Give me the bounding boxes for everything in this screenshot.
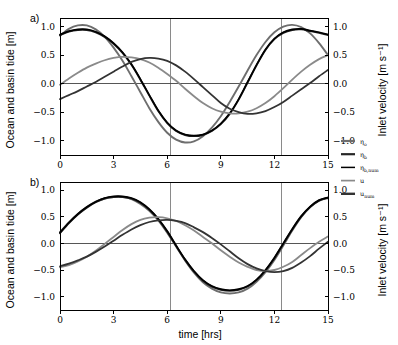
panel-a-y-axis-title: Ocean and basin tide [m] bbox=[4, 32, 16, 149]
y-tick-label: −0.5 bbox=[33, 265, 55, 275]
x-axis-title: time [hrs] bbox=[178, 328, 221, 340]
panel-b-label: b) bbox=[30, 176, 39, 188]
x-tick-label: 6 bbox=[164, 315, 170, 325]
y2-tick-label: 1.0 bbox=[333, 22, 348, 32]
y2-tick-label: 0.5 bbox=[333, 212, 348, 222]
tide-and-velocity-figure: a) Ocean and basin tide [m] Inlet veloci… bbox=[0, 0, 398, 345]
x-tick-label: 15 bbox=[322, 315, 334, 325]
x-tick-label: 12 bbox=[269, 315, 280, 325]
y2-tick-label: 0.5 bbox=[333, 50, 348, 60]
y2-tick-label: −0.5 bbox=[333, 107, 355, 117]
x-tick-label: 12 bbox=[269, 160, 280, 170]
y-tick-label: 0.5 bbox=[41, 50, 56, 60]
y-tick-label: −1.0 bbox=[33, 136, 55, 146]
x-tick-label: 0 bbox=[57, 160, 63, 170]
y-tick-label: 0.5 bbox=[41, 212, 56, 222]
y2-tick-label: 0.0 bbox=[333, 79, 348, 89]
y-tick-label: −0.5 bbox=[33, 107, 55, 117]
y2-tick-label: 0.0 bbox=[333, 239, 348, 249]
x-tick-label: 6 bbox=[164, 160, 170, 170]
x-tick-label: 0 bbox=[57, 315, 63, 325]
x-tick-label: 3 bbox=[111, 160, 117, 170]
panel-b-y-axis-title: Ocean and basin tide [m] bbox=[4, 192, 16, 309]
y-tick-label: 1.0 bbox=[41, 185, 56, 195]
x-tick-label: 9 bbox=[218, 160, 224, 170]
x-tick-label: 9 bbox=[218, 315, 224, 325]
x-tick-label: 3 bbox=[111, 315, 117, 325]
y-tick-label: 0.0 bbox=[41, 79, 56, 89]
x-tick-label: 15 bbox=[322, 160, 334, 170]
y-tick-label: 0.0 bbox=[41, 239, 56, 249]
legend-label-3: u bbox=[360, 177, 364, 185]
panel-a-label: a) bbox=[30, 12, 39, 24]
y2-tick-label: −0.5 bbox=[333, 265, 355, 275]
panel-a-y2-axis-title: Inlet velocity [m s⁻¹] bbox=[376, 43, 388, 136]
y2-tick-label: −1.0 bbox=[333, 292, 355, 302]
y-tick-label: −1.0 bbox=[33, 292, 55, 302]
panel-b-y2-axis-title: Inlet velocity [m s⁻¹] bbox=[376, 203, 388, 296]
y-tick-label: 1.0 bbox=[41, 22, 56, 32]
